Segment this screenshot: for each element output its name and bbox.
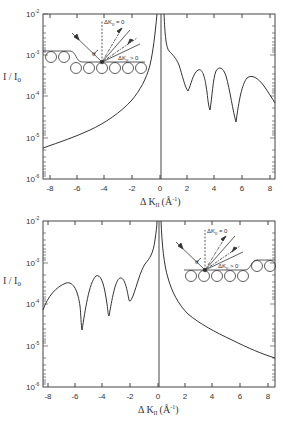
svg-text:4: 4 — [212, 184, 217, 193]
top-plot: 10-2 10-3 10-4 10-5 10-6 I / I0 -8 -6 -4… — [3, 8, 275, 208]
svg-text:6: 6 — [240, 184, 245, 193]
svg-text:10-6: 10-6 — [26, 381, 40, 392]
bottom-inset-label-zero: ΔKII = 0 — [207, 228, 228, 236]
bottom-y-axis-title: I / I0 — [3, 275, 21, 288]
svg-text:-4: -4 — [98, 392, 106, 401]
svg-text:10-3: 10-3 — [26, 49, 40, 60]
top-inset-label-zero: ΔKII = 0 — [104, 19, 125, 27]
svg-text:8: 8 — [268, 184, 273, 193]
svg-text:-8: -8 — [46, 184, 54, 193]
svg-text:4: 4 — [210, 392, 215, 401]
svg-text:0: 0 — [158, 184, 163, 193]
top-x-tick-labels: -8 -6 -4 -2 0 2 4 6 8 — [46, 184, 272, 193]
bottom-plot: 10-2 10-3 10-4 10-5 10-6 I / I0 -8 -6 -4… — [3, 215, 276, 416]
top-y-tick-labels: 10-2 10-3 10-4 10-5 10-6 — [26, 8, 40, 184]
bottom-inset-label-positive: ΔKII > 0 — [218, 263, 239, 271]
svg-text:10-5: 10-5 — [26, 132, 40, 143]
svg-text:10-5: 10-5 — [26, 340, 40, 351]
svg-text:-8: -8 — [44, 392, 52, 401]
svg-text:8: 8 — [266, 392, 271, 401]
bottom-x-ticks — [48, 221, 268, 387]
svg-text:0: 0 — [156, 392, 161, 401]
svg-text:10-2: 10-2 — [26, 215, 40, 226]
svg-text:-6: -6 — [73, 184, 81, 193]
figure: 10-2 10-3 10-4 10-5 10-6 I / I0 -8 -6 -4… — [0, 0, 283, 425]
bottom-y-tick-labels: 10-2 10-3 10-4 10-5 10-6 — [26, 215, 40, 392]
top-data-curve — [43, 14, 275, 148]
svg-text:6: 6 — [238, 392, 243, 401]
svg-text:10-2: 10-2 — [26, 8, 40, 19]
top-y-axis-title: I / I0 — [3, 71, 21, 84]
bottom-x-tick-labels: -8 -6 -4 -2 0 2 4 6 8 — [44, 392, 270, 401]
svg-text:10-3: 10-3 — [26, 257, 40, 268]
svg-text:-2: -2 — [126, 392, 134, 401]
top-x-axis-title: Δ KII(Å-1) — [140, 196, 181, 208]
svg-text:-2: -2 — [128, 184, 136, 193]
svg-text:10-6: 10-6 — [26, 173, 40, 184]
svg-text:10-4: 10-4 — [26, 90, 40, 101]
top-inset-diagram — [43, 20, 147, 74]
svg-text:2: 2 — [185, 184, 190, 193]
svg-text:2: 2 — [183, 392, 188, 401]
bottom-x-axis-title: Δ KII(Å-1) — [138, 404, 179, 416]
svg-text:10-4: 10-4 — [26, 298, 40, 309]
top-inset-label-positive: ΔKII > 0 — [118, 55, 139, 63]
svg-text:-4: -4 — [100, 184, 108, 193]
svg-text:-6: -6 — [71, 392, 79, 401]
bottom-inset-diagram — [176, 230, 276, 282]
top-x-ticks — [50, 14, 270, 179]
